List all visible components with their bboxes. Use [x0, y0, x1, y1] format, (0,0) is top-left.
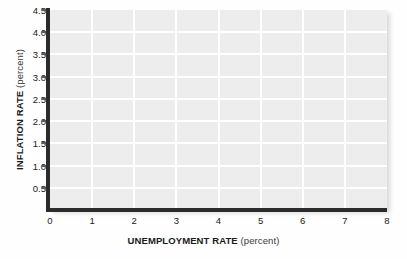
- gridline-horizontal: [50, 31, 387, 33]
- gridline-vertical: [260, 10, 262, 210]
- x-axis-tick-label: 2: [119, 215, 149, 226]
- gridline-horizontal: [50, 142, 387, 144]
- x-axis-title: UNEMPLOYMENT RATE (percent): [0, 235, 407, 246]
- plot-area: [50, 10, 387, 210]
- gridline-horizontal: [50, 53, 387, 55]
- x-axis-tick-label: 6: [288, 215, 318, 226]
- y-axis-tick-mark: [42, 142, 46, 144]
- x-axis-tick-label: 5: [246, 215, 276, 226]
- y-axis-tick-mark: [42, 98, 46, 100]
- y-axis-tick-labels: 0.51.01.52.02.53.03.54.04.5: [22, 10, 46, 210]
- y-axis-tick-mark: [42, 31, 46, 33]
- x-axis-tick-label: 0: [35, 215, 65, 226]
- gridline-horizontal: [50, 120, 387, 122]
- y-axis-tick-mark: [42, 120, 46, 122]
- x-axis-title-unit: (percent): [241, 235, 280, 246]
- y-axis-tick-mark: [42, 76, 46, 78]
- y-axis-tick-mark: [42, 165, 46, 167]
- y-axis-tick-mark: [42, 187, 46, 189]
- gridline-horizontal: [50, 187, 387, 189]
- x-axis-tick-labels: 012345678: [0, 215, 407, 231]
- x-axis-tick-label: 3: [161, 215, 191, 226]
- gridline-vertical: [133, 10, 135, 210]
- x-axis-title-main: UNEMPLOYMENT RATE: [128, 235, 238, 246]
- gridline-horizontal: [50, 98, 387, 100]
- gridline-horizontal: [50, 76, 387, 78]
- gridline-horizontal: [50, 165, 387, 167]
- x-axis-tick-label: 1: [77, 215, 107, 226]
- x-axis-tick-label: 8: [372, 215, 402, 226]
- gridline-vertical: [91, 10, 93, 210]
- gridline-vertical: [175, 10, 177, 210]
- y-axis-tick-mark: [42, 9, 46, 11]
- x-axis-line: [46, 208, 387, 212]
- y-axis-line: [46, 8, 50, 212]
- gridline-vertical: [218, 10, 220, 210]
- gridline-vertical: [302, 10, 304, 210]
- y-axis-tick-mark: [42, 53, 46, 55]
- x-axis-tick-label: 7: [330, 215, 360, 226]
- gridline-vertical: [344, 10, 346, 210]
- x-axis-tick-label: 4: [204, 215, 234, 226]
- chart-figure: INFLATION RATE (percent) 0.51.01.52.02.5…: [0, 0, 407, 259]
